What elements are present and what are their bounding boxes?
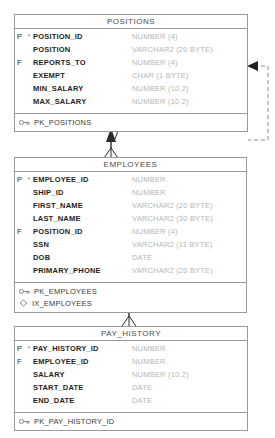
primary-key-icon [19, 418, 30, 425]
key-row-pk-pay-history[interactable]: PK_PAY_HISTORY_ID [15, 415, 247, 427]
column-row[interactable]: END_DATE DATE [15, 396, 247, 409]
column-name: START_DATE [33, 383, 83, 392]
column-row[interactable]: LAST_NAME VARCHAR2 (30 BYTE) [15, 214, 246, 227]
key-row-ix-employees[interactable]: IX_EMPLOYEES [15, 297, 246, 309]
column-row[interactable]: F POSITION_ID NUMBER (4) [15, 227, 246, 240]
column-row[interactable]: EXEMPT CHAR (1 BYTE) [15, 71, 247, 84]
column-datatype: NUMBER [132, 357, 166, 366]
column-row[interactable]: P * PAY_HISTORY_ID NUMBER [15, 344, 247, 357]
column-datatype: VARCHAR2 (11 BYTE) [132, 240, 212, 249]
column-name: POSITION_ID [33, 32, 83, 41]
column-datatype: CHAR (1 BYTE) [132, 71, 189, 80]
column-datatype: DATE [132, 253, 152, 262]
column-required-marker: * [25, 175, 33, 184]
key-list-positions: PK_POSITIONS [15, 114, 247, 131]
entity-title-pay-history: PAY_HISTORY [15, 327, 247, 341]
column-datatype: NUMBER (10,2) [132, 370, 189, 379]
entity-title-positions: POSITIONS [15, 15, 247, 29]
column-key-flag: P [15, 344, 25, 353]
column-key-flag: P [15, 175, 25, 184]
column-required-marker: * [25, 344, 33, 353]
column-row[interactable]: P * POSITION_ID NUMBER (4) [15, 32, 247, 45]
column-row[interactable]: SHIP_ID NUMBER [15, 188, 246, 201]
column-datatype: NUMBER (10,2) [132, 84, 189, 93]
column-name: SSN [33, 240, 49, 249]
column-key-flag: F [15, 58, 25, 67]
column-name: SALARY [33, 370, 65, 379]
column-datatype: NUMBER (4) [132, 32, 178, 41]
column-row[interactable]: DOB DATE [15, 253, 246, 266]
column-name: LAST_NAME [33, 214, 81, 223]
key-label: PK_EMPLOYEES [34, 287, 97, 296]
column-name: EMPLOYEE_ID [33, 175, 89, 184]
primary-key-icon [19, 288, 30, 295]
entity-positions[interactable]: POSITIONS P * POSITION_ID NUMBER (4) POS… [14, 14, 248, 132]
column-datatype: VARCHAR2 (20 BYTE) [132, 266, 213, 275]
column-row[interactable]: F EMPLOYEE_ID NUMBER [15, 357, 247, 370]
entity-pay-history[interactable]: PAY_HISTORY P * PAY_HISTORY_ID NUMBER F … [14, 326, 248, 431]
entity-title-employees: EMPLOYEES [15, 158, 246, 172]
key-label: IX_EMPLOYEES [32, 299, 92, 308]
entity-employees[interactable]: EMPLOYEES P * EMPLOYEE_ID NUMBER SHIP_ID… [14, 157, 247, 313]
primary-key-icon [19, 119, 30, 126]
column-name: DOB [33, 253, 50, 262]
column-name: MAX_SALARY [33, 97, 86, 106]
column-row[interactable]: START_DATE DATE [15, 383, 247, 396]
column-datatype: VARCHAR2 (30 BYTE) [132, 214, 213, 223]
column-name: POSITION_ID [33, 227, 83, 236]
column-name: SHIP_ID [33, 188, 64, 197]
relationship-positions-reports-to-self [246, 60, 275, 146]
key-row-pk-positions[interactable]: PK_POSITIONS [15, 116, 247, 128]
column-name: PRIMARY_PHONE [33, 266, 101, 275]
column-name: END_DATE [33, 396, 74, 405]
column-row[interactable]: PRIMARY_PHONE VARCHAR2 (20 BYTE) [15, 266, 246, 279]
column-row[interactable]: POSITION VARCHAR2 (20 BYTE) [15, 45, 247, 58]
column-name: PAY_HISTORY_ID [33, 344, 99, 353]
column-datatype: NUMBER [132, 344, 166, 353]
column-name: POSITION [33, 45, 70, 54]
key-list-employees: PK_EMPLOYEES IX_EMPLOYEES [15, 283, 246, 312]
column-datatype: NUMBER (4) [132, 227, 178, 236]
column-datatype: NUMBER [132, 188, 166, 197]
column-datatype: NUMBER (10,2) [132, 97, 189, 106]
column-datatype: DATE [132, 396, 152, 405]
column-name: EMPLOYEE_ID [33, 357, 89, 366]
column-datatype: NUMBER (4) [132, 58, 178, 67]
column-datatype: VARCHAR2 (20 BYTE) [132, 201, 213, 210]
column-list-pay-history: P * PAY_HISTORY_ID NUMBER F EMPLOYEE_ID … [15, 341, 247, 413]
key-row-pk-employees[interactable]: PK_EMPLOYEES [15, 285, 246, 297]
key-list-pay-history: PK_PAY_HISTORY_ID [15, 413, 247, 430]
column-row[interactable]: P * EMPLOYEE_ID NUMBER [15, 175, 246, 188]
column-row[interactable]: MIN_SALARY NUMBER (10,2) [15, 84, 247, 97]
column-key-flag: F [15, 357, 25, 366]
key-label: PK_POSITIONS [34, 118, 91, 127]
column-name: REPORTS_TO [33, 58, 86, 67]
column-name: FIRST_NAME [33, 201, 83, 210]
index-icon [19, 299, 28, 307]
column-list-employees: P * EMPLOYEE_ID NUMBER SHIP_ID NUMBER [15, 172, 246, 283]
erd-canvas: POSITIONS P * POSITION_ID NUMBER (4) POS… [0, 0, 275, 438]
column-list-positions: P * POSITION_ID NUMBER (4) POSITION VARC… [15, 29, 247, 114]
column-datatype: DATE [132, 383, 152, 392]
column-key-flag: P [15, 32, 25, 41]
column-row[interactable]: F REPORTS_TO NUMBER (4) [15, 58, 247, 71]
key-label: PK_PAY_HISTORY_ID [34, 417, 114, 426]
column-row[interactable]: SALARY NUMBER (10,2) [15, 370, 247, 383]
column-name: MIN_SALARY [33, 84, 83, 93]
column-key-flag: F [15, 227, 25, 236]
column-datatype: VARCHAR2 (20 BYTE) [132, 45, 213, 54]
column-row[interactable]: MAX_SALARY NUMBER (10,2) [15, 97, 247, 110]
column-row[interactable]: FIRST_NAME VARCHAR2 (20 BYTE) [15, 201, 246, 214]
column-name: EXEMPT [33, 71, 65, 80]
column-datatype: NUMBER [132, 175, 166, 184]
column-required-marker: * [25, 32, 33, 41]
column-row[interactable]: SSN VARCHAR2 (11 BYTE) [15, 240, 246, 253]
